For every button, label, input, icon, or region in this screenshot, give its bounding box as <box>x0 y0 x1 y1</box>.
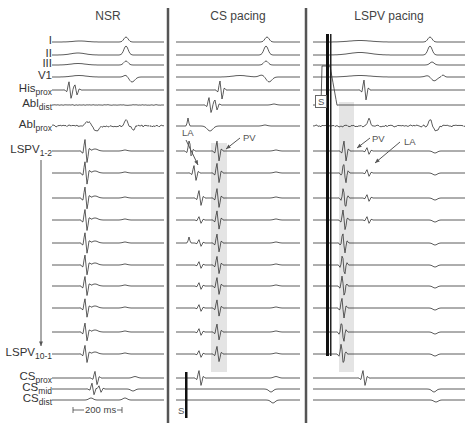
trace-nsr-LSPV_3 <box>52 187 164 209</box>
lead-label-main: Abl <box>19 118 36 130</box>
trace-lspv-LSPV_5 <box>313 234 465 253</box>
cs-pv-label: PV <box>243 132 256 143</box>
lead-label-main: I <box>49 34 52 46</box>
trace-lspv-V1 <box>313 75 465 81</box>
lead-label-subscript: prox <box>35 87 52 97</box>
lead-label-subscript: dist <box>39 397 52 407</box>
panel-title-nsr: NSR <box>52 9 164 23</box>
trace-lspv-CS_mid <box>313 389 465 392</box>
panel-title-cs-pacing: CS pacing <box>176 9 300 23</box>
lead-label-lspv-1-2: LSPV1-2 <box>10 143 52 159</box>
lead-label-main: Abl <box>22 97 39 109</box>
trace-lspv-III <box>313 62 465 65</box>
lead-label-cs-dist: CSdist <box>23 392 52 408</box>
trace-nsr-Abl_prox <box>52 120 164 131</box>
lspv-stim-label: S <box>315 95 327 108</box>
trace-lspv-I <box>313 37 465 42</box>
trace-nsr-LSPV_1_2 <box>52 140 164 163</box>
trace-cs-LSPV_8 <box>176 300 300 316</box>
trace-cs-LSPV_3 <box>176 189 300 208</box>
trace-nsr-V1 <box>52 75 164 82</box>
lead-label-lspv-10-1: LSPV10-1 <box>6 346 52 362</box>
cs-stim-label: S <box>178 405 184 416</box>
lead-label-i: I <box>49 34 52 46</box>
shaded-region-lspv <box>339 102 354 372</box>
lead-label-main: His <box>19 82 36 94</box>
electrogram-figure: NSR CS pacing LSPV pacing IIIIIIV1Hispro… <box>0 0 471 429</box>
trace-lspv-LSPV_4 <box>313 210 465 230</box>
trace-nsr-II <box>52 46 164 55</box>
trace-nsr-CS_mid <box>52 383 164 395</box>
trace-cs-CS_mid <box>176 389 300 392</box>
trace-nsr-LSPV_10_1 <box>52 345 164 362</box>
trace-lspv-LSPV_9 <box>313 324 465 342</box>
lead-label-subscript: dist <box>39 102 52 112</box>
lead-label-subscript: 1-2 <box>40 148 52 158</box>
lead-label-main: III <box>42 57 52 69</box>
trace-lspv-Abl_dist <box>313 66 465 105</box>
lead-label-iii: III <box>42 57 52 69</box>
trace-nsr-I <box>52 37 164 42</box>
lead-label-main: V1 <box>38 69 52 81</box>
lspv-stim-artifact <box>326 34 329 356</box>
lead-label-main: CS <box>23 392 39 404</box>
trace-cs-II <box>176 46 300 55</box>
trace-nsr-III <box>52 61 164 65</box>
trace-nsr-LSPV_8 <box>52 299 164 317</box>
trace-cs-LSPV_2 <box>176 163 300 182</box>
scale-bar-label: 200 ms <box>84 404 117 415</box>
panel-title-lspv-pacing: LSPV pacing <box>313 9 465 23</box>
trace-nsr-LSPV_5 <box>52 233 164 253</box>
trace-cs-CS_dist <box>176 400 300 403</box>
trace-lspv-CS_dist <box>313 400 465 402</box>
trace-lspv-LSPV_6 <box>313 256 465 274</box>
trace-cs-LSPV_9 <box>176 324 300 340</box>
trace-nsr-CS_prox <box>52 371 164 384</box>
trace-nsr-LSPV_4 <box>52 210 164 231</box>
trace-cs-I <box>176 37 300 42</box>
lead-label-main: LSPV <box>6 346 35 358</box>
trace-lspv-LSPV_7 <box>313 276 465 295</box>
trace-nsr-Abl_dist <box>52 105 164 106</box>
trace-nsr-His_prox <box>52 82 164 99</box>
trace-lspv-CS_prox <box>313 371 465 386</box>
trace-lspv-II <box>313 46 465 55</box>
lead-label-his-prox: Hisprox <box>19 82 52 98</box>
trace-lspv-LSPV_3 <box>313 189 465 207</box>
lspv-stim-artifact-2 <box>330 34 332 356</box>
trace-cs-LSPV_7 <box>176 278 300 295</box>
trace-nsr-LSPV_2 <box>52 162 164 184</box>
electrogram-traces <box>0 0 471 429</box>
lead-label-main: LSPV <box>10 143 39 155</box>
cs-stim-artifact <box>185 372 188 418</box>
trace-nsr-LSPV_9 <box>52 323 164 341</box>
lspv-la-arrow <box>375 142 400 163</box>
trace-cs-LSPV_5 <box>176 234 300 252</box>
trace-cs-CS_prox <box>176 371 300 386</box>
trace-lspv-LSPV_10_1 <box>313 344 465 362</box>
trace-nsr-LSPV_7 <box>52 277 164 296</box>
lead-label-subscript: prox <box>35 123 52 133</box>
trace-cs-LSPV_6 <box>176 256 300 273</box>
lead-label-abl-dist: Abldist <box>22 97 52 113</box>
trace-nsr-LSPV_6 <box>52 255 164 275</box>
trace-cs-Abl_dist <box>176 98 300 113</box>
lspv-pv-label: PV <box>372 133 385 144</box>
cs-la-label: LA <box>182 127 194 138</box>
trace-cs-V1 <box>176 75 300 82</box>
trace-cs-Abl_prox <box>176 118 300 131</box>
lead-label-abl-prox: Ablprox <box>19 118 52 134</box>
lspv-la-label: LA <box>404 136 416 147</box>
trace-cs-LSPV_10_1 <box>176 346 300 361</box>
trace-lspv-LSPV_8 <box>313 298 465 318</box>
trace-cs-LSPV_4 <box>176 211 300 229</box>
lead-labels: IIIIIIV1HisproxAbldistAblproxLSPV1-2LSPV… <box>0 0 52 429</box>
trace-cs-III <box>176 61 300 65</box>
trace-lspv-Abl_prox <box>313 118 465 131</box>
lead-label-v1: V1 <box>38 69 52 81</box>
lead-label-subscript: 10-1 <box>35 351 52 361</box>
trace-nsr-CS_dist <box>52 398 164 400</box>
trace-lspv-LSPV_2 <box>313 165 465 183</box>
trace-cs-His_prox <box>176 81 300 99</box>
